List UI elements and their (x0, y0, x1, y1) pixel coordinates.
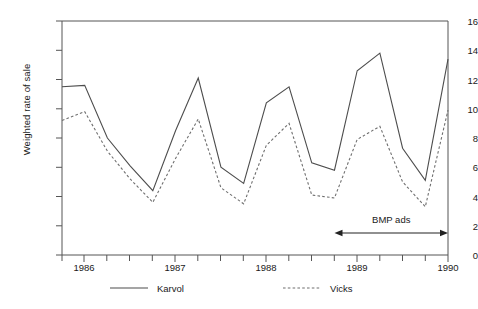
bmp-ads-arrowhead-left (334, 230, 342, 236)
series-line-vicks (62, 110, 448, 207)
chart-canvas (0, 0, 478, 309)
y-axis-ticks (56, 21, 62, 255)
axes-frame (62, 21, 448, 255)
bmp-ads-arrowhead-right (440, 230, 448, 236)
x-axis-ticks (62, 255, 448, 262)
series-line-karvol (62, 53, 448, 190)
chart-figure: Weighted rate of sale 16 14 12 10 8 6 4 … (0, 0, 478, 309)
